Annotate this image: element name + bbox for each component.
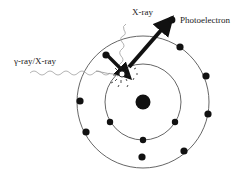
electron-dot <box>180 147 187 154</box>
electron-dot <box>172 119 178 125</box>
electron-dot <box>202 72 209 79</box>
electron-dot <box>176 43 183 50</box>
canvas-background <box>0 0 244 171</box>
photoelectron-marker-dot <box>169 17 176 24</box>
electron-dot <box>76 97 83 104</box>
electron-dot <box>107 119 113 125</box>
nucleus <box>136 95 151 110</box>
emitted-xray-label: X-ray <box>132 7 153 17</box>
vacancy-hole-circle <box>119 71 125 77</box>
electron-dot <box>138 153 145 160</box>
photoelectron-label: Photoelectron <box>180 15 230 25</box>
electron-dot <box>140 137 146 143</box>
electron-dot <box>82 128 89 135</box>
atomic-photoelectric-diagram: γ-ray/X-ray X-ray Photoelectron <box>0 0 244 171</box>
electron-dot <box>204 110 211 117</box>
incident-photon-label: γ-ray/X-ray <box>13 56 56 66</box>
